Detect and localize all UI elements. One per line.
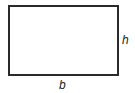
- rectangle-shape: [8, 5, 119, 76]
- base-label: b: [59, 79, 66, 91]
- height-label: h: [122, 34, 129, 46]
